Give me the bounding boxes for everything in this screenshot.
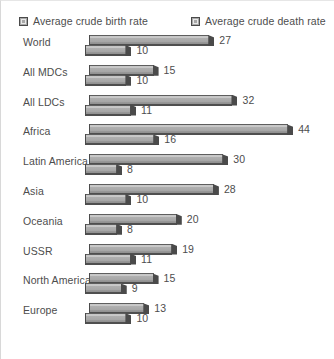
bar-value-label: 19 <box>182 243 194 255</box>
legend-swatch-death-icon <box>191 17 200 26</box>
bar-value-label: 9 <box>132 282 138 294</box>
bar-face <box>85 283 122 294</box>
bar-value-label: 27 <box>219 34 231 46</box>
category-label: USSR <box>23 245 53 257</box>
bar-face <box>85 194 126 205</box>
bar-value-label: 10 <box>136 44 148 56</box>
row-bars: 1310 <box>89 302 334 332</box>
legend-swatch-birth-icon <box>19 17 28 26</box>
bar-death-rate[interactable] <box>85 283 127 294</box>
bar-death-rate[interactable] <box>85 134 159 145</box>
bar-end-cap <box>130 254 136 265</box>
bar-body <box>85 283 127 294</box>
row-bars: 2810 <box>89 183 334 213</box>
bar-death-rate[interactable] <box>85 254 136 265</box>
bar-value-label: 44 <box>298 123 310 135</box>
chart-row: USSR1911 <box>1 243 334 273</box>
bar-value-label: 16 <box>164 133 176 145</box>
bar-body <box>85 224 122 235</box>
category-label: World <box>23 36 51 48</box>
bar-body <box>85 75 131 86</box>
chart-plot-area: World2710All MDCs1510All LDCs3211Africa4… <box>1 34 334 332</box>
row-bars: 208 <box>89 213 334 243</box>
chart-row: Asia2810 <box>1 183 334 213</box>
bar-body <box>85 313 131 324</box>
row-bars: 1911 <box>89 243 334 273</box>
row-bars: 159 <box>89 272 334 302</box>
bar-value-label: 11 <box>141 253 152 265</box>
bar-face <box>85 75 126 86</box>
bar-end-cap <box>231 95 237 106</box>
bar-end-cap <box>222 154 228 165</box>
row-bars: 4416 <box>89 123 334 153</box>
bar-body <box>85 164 122 175</box>
bar-face <box>85 164 117 175</box>
bar-death-rate[interactable] <box>85 105 136 116</box>
bar-body <box>85 134 159 145</box>
bar-end-cap <box>125 194 131 205</box>
bar-value-label: 15 <box>164 64 176 76</box>
bar-face <box>85 313 126 324</box>
bar-face <box>85 254 131 265</box>
chart-row: All MDCs1510 <box>1 64 334 94</box>
bar-death-rate[interactable] <box>85 194 131 205</box>
bar-end-cap <box>208 35 214 46</box>
bar-end-cap <box>213 184 219 195</box>
legend-label-death: Average crude death rate <box>205 15 326 27</box>
bar-value-label: 8 <box>127 163 133 175</box>
bar-end-cap <box>130 105 136 116</box>
category-label: North America <box>23 274 91 286</box>
bar-body <box>85 254 136 265</box>
category-label: All MDCs <box>23 66 68 78</box>
bar-value-label: 11 <box>141 104 152 116</box>
bar-end-cap <box>125 75 131 86</box>
category-label: Oceania <box>23 215 63 227</box>
bar-value-label: 10 <box>136 312 148 324</box>
bar-value-label: 13 <box>154 302 166 314</box>
bar-end-cap <box>121 283 127 294</box>
chart-row: North America159 <box>1 272 334 302</box>
category-label: Africa <box>23 125 50 137</box>
bar-end-cap <box>116 224 122 235</box>
bar-death-rate[interactable] <box>85 313 131 324</box>
row-bars: 308 <box>89 153 334 183</box>
row-bars: 3211 <box>89 94 334 124</box>
bar-end-cap <box>176 214 182 225</box>
bar-end-cap <box>116 164 122 175</box>
bar-value-label: 28 <box>224 183 236 195</box>
legend-item-birth-rate: Average crude birth rate <box>19 15 148 27</box>
legend-label-birth: Average crude birth rate <box>33 15 148 27</box>
bar-face <box>85 134 154 145</box>
bar-face <box>85 45 126 56</box>
bar-end-cap <box>125 45 131 56</box>
chart-row: Oceania208 <box>1 213 334 243</box>
chart-row: World2710 <box>1 34 334 64</box>
bar-body <box>85 105 136 116</box>
bar-value-label: 10 <box>136 74 148 86</box>
category-label: Europe <box>23 304 57 316</box>
chart-row: Latin America308 <box>1 153 334 183</box>
bar-end-cap <box>153 65 159 76</box>
bar-end-cap <box>125 313 131 324</box>
bar-death-rate[interactable] <box>85 224 122 235</box>
bar-end-cap <box>171 244 177 255</box>
bar-value-label: 15 <box>164 272 176 284</box>
category-label: Asia <box>23 185 44 197</box>
bar-death-rate[interactable] <box>85 75 131 86</box>
chart-legend: Average crude birth rate Average crude d… <box>1 15 334 31</box>
bar-death-rate[interactable] <box>85 164 122 175</box>
bar-face <box>85 105 131 116</box>
bar-end-cap <box>287 124 293 135</box>
chart-row: All LDCs3211 <box>1 94 334 124</box>
bar-end-cap <box>153 273 159 284</box>
bar-face <box>85 224 117 235</box>
bar-value-label: 20 <box>187 213 199 225</box>
bar-death-rate[interactable] <box>85 45 131 56</box>
chart-frame: Average crude birth rate Average crude d… <box>0 0 334 359</box>
chart-row: Europe1310 <box>1 302 334 332</box>
row-bars: 2710 <box>89 34 334 64</box>
row-bars: 1510 <box>89 64 334 94</box>
category-label: Latin America <box>23 155 88 167</box>
bar-end-cap <box>153 134 159 145</box>
bar-value-label: 30 <box>233 153 245 165</box>
